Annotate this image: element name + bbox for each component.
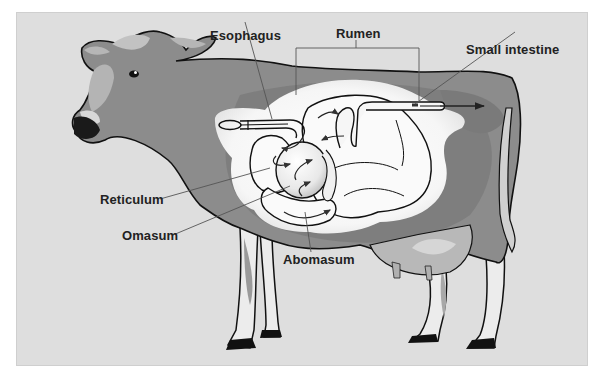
label-reticulum: Reticulum xyxy=(100,193,164,207)
label-rumen: Rumen xyxy=(336,27,381,41)
omasum-chamber xyxy=(276,142,328,198)
label-esophagus: Esophagus xyxy=(210,29,281,43)
label-abomasum: Abomasum xyxy=(283,253,355,267)
label-small-intestine: Small intestine xyxy=(466,43,559,57)
label-omasum: Omasum xyxy=(122,229,178,243)
eye-icon xyxy=(129,71,139,78)
